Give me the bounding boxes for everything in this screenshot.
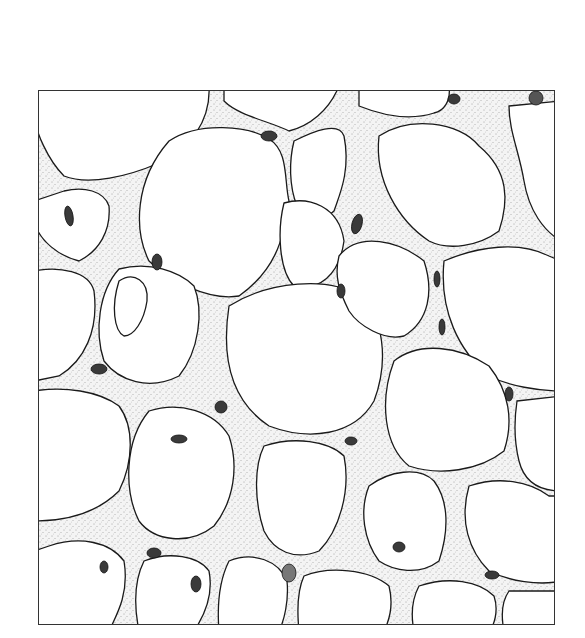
tissue-drawing (39, 91, 555, 625)
histology-figure (38, 90, 555, 625)
